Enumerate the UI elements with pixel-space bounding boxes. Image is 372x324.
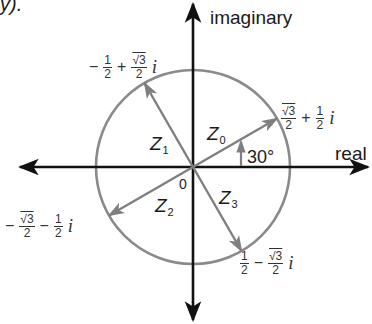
z3-label: Z3: [219, 188, 238, 210]
origin-label: 0: [179, 177, 187, 191]
z2-label: Z2: [155, 196, 174, 218]
z3-value: 12 − √32 i: [238, 250, 294, 276]
complex-plane-diagram: y). imaginary real 0 30° Z0 Z1 Z2 Z3 √32…: [0, 0, 372, 324]
imaginary-axis-label: imaginary: [210, 8, 292, 27]
z1-label: Z1: [150, 134, 169, 156]
angle-label: 30°: [247, 148, 274, 166]
real-axis-label: real: [335, 144, 367, 163]
z2-value: − √32 − 12 i: [2, 213, 73, 239]
z1-value: − 12 + √32 i: [86, 54, 157, 80]
diagram-graphics: [0, 0, 372, 324]
corner-fragment: y).: [0, 0, 22, 14]
z0-value: √32 + 12 i: [279, 105, 335, 131]
z0-label: Z0: [207, 124, 226, 146]
